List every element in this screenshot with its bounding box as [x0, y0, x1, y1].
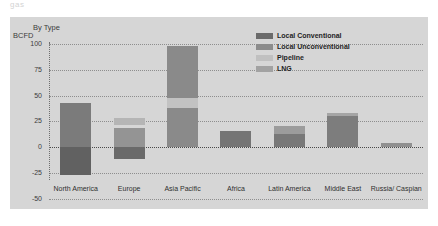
legend-item[interactable]: Local Conventional	[256, 31, 350, 40]
stacked-bar[interactable]	[167, 17, 198, 209]
x-axis-category-label: Africa	[209, 185, 262, 192]
x-axis-category-label: Middle East	[316, 185, 369, 192]
y-axis-tick-label: 50	[10, 92, 42, 99]
cropped-text-strip: gas	[0, 0, 438, 16]
bar-segment[interactable]	[60, 103, 91, 147]
x-axis-category-label: Asia Pacific	[156, 185, 209, 192]
x-axis-category-label: Latin America	[263, 185, 316, 192]
legend-label: Local Unconventional	[277, 43, 350, 50]
bar-series-group: North AmericaEuropeAsia PacificAfricaLat…	[49, 17, 423, 209]
chart-screenshot: gas By Type BCFD 1007550250-25-50 North …	[0, 0, 438, 226]
legend-item[interactable]: Pipeline	[256, 53, 350, 62]
bar-segment[interactable]	[220, 131, 251, 147]
stacked-bar[interactable]	[114, 17, 145, 209]
stacked-bar[interactable]	[381, 17, 412, 209]
bar-segment[interactable]	[274, 134, 305, 147]
bar-segment[interactable]	[60, 147, 91, 175]
legend-swatch-icon	[256, 44, 273, 50]
cropped-text: gas	[10, 0, 24, 9]
bar-group[interactable]: Europe	[102, 17, 155, 209]
y-axis-tick-label: 25	[10, 117, 42, 124]
legend-swatch-icon	[256, 33, 273, 39]
plot-area: By Type BCFD 1007550250-25-50 North Amer…	[10, 17, 428, 209]
bar-segment[interactable]	[167, 108, 198, 147]
legend-label: Pipeline	[277, 54, 304, 61]
bar-group[interactable]: Africa	[209, 17, 262, 209]
stacked-bar[interactable]	[60, 17, 91, 209]
y-axis-label: BCFD	[13, 31, 33, 40]
bar-segment[interactable]	[167, 98, 198, 108]
bar-group[interactable]: Asia Pacific	[156, 17, 209, 209]
legend-label: Local Conventional	[277, 32, 342, 39]
bar-segment[interactable]	[114, 118, 145, 125]
legend-item[interactable]: LNG	[256, 64, 350, 73]
y-axis-tick-label: -50	[10, 195, 42, 202]
chart-panel: By Type BCFD 1007550250-25-50 North Amer…	[10, 17, 428, 209]
chart-legend: Local ConventionalLocal UnconventionalPi…	[256, 31, 350, 75]
legend-label: LNG	[277, 65, 292, 72]
stacked-bar[interactable]	[220, 17, 251, 209]
bar-segment[interactable]	[274, 126, 305, 133]
y-axis-tick-label: 75	[10, 66, 42, 73]
y-axis-tick-label: 100	[10, 40, 42, 47]
legend-swatch-icon	[256, 66, 273, 72]
bar-group[interactable]: North America	[49, 17, 102, 209]
legend-item[interactable]: Local Unconventional	[256, 42, 350, 51]
x-axis-category-label: Russia/ Caspian	[370, 185, 423, 192]
x-axis-category-label: North America	[49, 185, 102, 192]
bar-group[interactable]: Russia/ Caspian	[370, 17, 423, 209]
bar-segment[interactable]	[114, 147, 145, 159]
y-axis-tick-label: 0	[10, 143, 42, 150]
y-axis-tick-label: -25	[10, 169, 42, 176]
legend-swatch-icon	[256, 55, 273, 61]
bar-segment[interactable]	[167, 46, 198, 98]
bar-segment[interactable]	[381, 143, 412, 147]
bar-segment[interactable]	[114, 128, 145, 147]
x-axis-category-label: Europe	[102, 185, 155, 192]
bar-segment[interactable]	[327, 116, 358, 147]
